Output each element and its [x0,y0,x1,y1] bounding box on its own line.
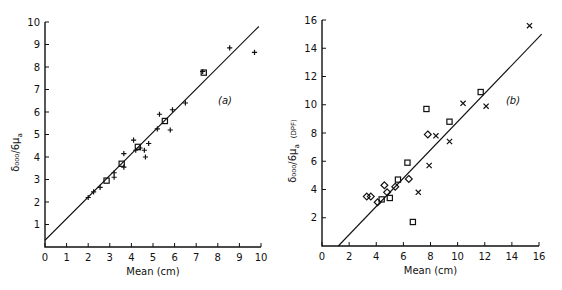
plus-marker [112,170,117,175]
plus-marker [112,175,117,180]
y-tick-label: 8 [311,128,317,139]
square-marker [478,89,483,94]
cross-marker [447,139,452,144]
y-tick-label: 10 [27,17,40,28]
y-tick-label: 1 [34,219,40,230]
regression-line [338,34,541,246]
diamond-marker [405,176,412,183]
chart-panel-b: 0246810121416246810121416Mean (cm)δ₀₀₀/6… [287,15,545,277]
plus-marker [168,127,173,132]
series-square [379,89,483,224]
series-plus [86,45,258,200]
x-tick-label: 2 [85,252,91,263]
x-tick-label: 16 [533,251,546,262]
y-axis-title: δ₀₀₀/6μa [10,133,24,172]
x-axis-title: Mean (cm) [126,266,180,277]
y-tick-label: 2 [311,212,317,223]
x-tick-label: 8 [427,251,433,262]
y-tick-label: 6 [34,107,40,118]
plus-marker [252,50,257,55]
x-tick-label: 4 [373,251,379,262]
cross-marker [484,104,489,109]
figure: 01234567891012345678910Mean (cm)δ₀₀₀/6μa… [0,0,562,290]
plus-marker [121,151,126,156]
y-tick-label: 9 [34,39,40,50]
y-tick-label: 8 [34,62,40,73]
y-tick-label: 7 [34,84,40,95]
x-tick-label: 9 [236,252,242,263]
series-cross [416,23,532,195]
series-square [104,70,206,183]
y-axis-ticks: 246810121416 [304,15,326,224]
y-tick-label: 6 [311,156,317,167]
x-axis-ticks: 0246810121416 [319,242,546,262]
x-tick-label: 7 [193,252,199,263]
x-axis-ticks: 012345678910 [42,243,268,263]
y-tick-label: 12 [304,71,317,82]
panel-label: (b) [506,95,520,106]
x-tick-label: 6 [400,251,406,262]
y-tick-label: 5 [34,129,40,140]
diamond-marker [424,131,431,138]
y-tick-label: 4 [311,184,317,195]
y-axis-ticks: 12345678910 [27,17,49,231]
cross-marker [527,23,532,28]
x-tick-label: 14 [506,251,519,262]
x-tick-label: 2 [346,251,352,262]
x-tick-label: 5 [150,252,156,263]
y-tick-label: 3 [34,174,40,185]
x-tick-label: 12 [478,251,491,262]
panel-label: (a) [218,95,232,106]
x-tick-label: 10 [451,251,464,262]
x-axis-title: Mean (cm) [404,265,458,276]
plus-marker [146,141,151,146]
square-marker [387,195,392,200]
square-marker [410,219,415,224]
y-tick-label: 10 [304,99,317,110]
y-tick-label: 14 [304,43,317,54]
cross-marker [433,133,438,138]
y-tick-label: 4 [34,152,40,163]
plus-marker [157,112,162,117]
x-tick-label: 0 [42,252,48,263]
axes-lines [45,22,261,247]
regression-line [45,27,259,241]
diamond-marker [381,182,388,189]
square-marker [405,160,410,165]
square-marker [424,106,429,111]
x-tick-label: 6 [171,252,177,263]
plus-marker [131,138,136,143]
square-marker [447,119,452,124]
cross-marker [427,163,432,168]
plus-marker [155,126,160,131]
plus-marker [227,45,232,50]
y-tick-label: 2 [34,197,40,208]
cross-marker [416,190,421,195]
x-tick-label: 1 [63,252,69,263]
x-tick-label: 4 [128,252,134,263]
plus-marker [143,154,148,159]
plus-marker [97,185,102,190]
x-tick-label: 3 [107,252,113,263]
x-tick-label: 10 [255,252,268,263]
x-tick-label: 0 [319,251,325,262]
y-tick-label: 16 [304,15,317,26]
cross-marker [460,101,465,106]
chart-panel-a: 01234567891012345678910Mean (cm)δ₀₀₀/6μa… [10,17,267,278]
y-axis-title: δ₀₀₀/6μa(DPF) [287,119,301,183]
x-tick-label: 8 [215,252,221,263]
square-marker [201,70,206,75]
